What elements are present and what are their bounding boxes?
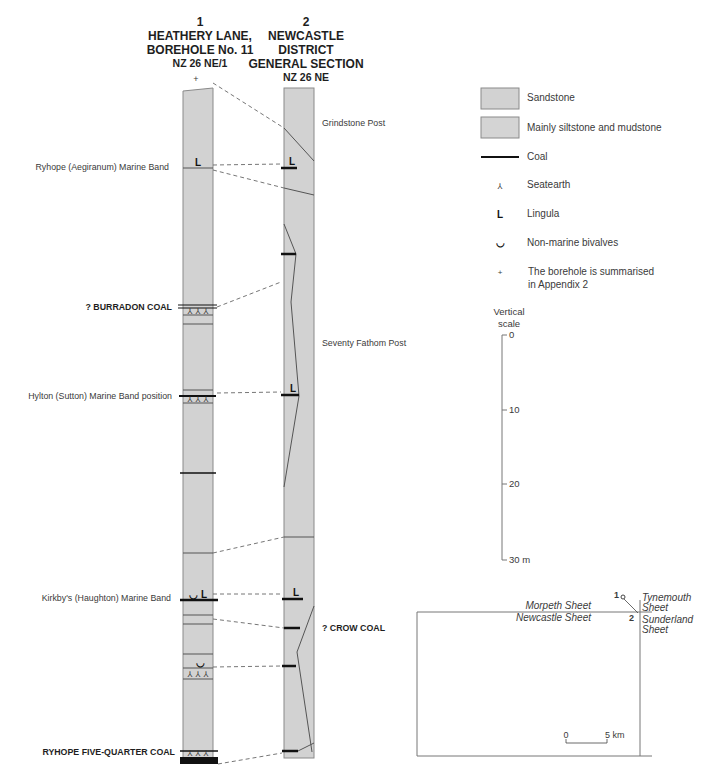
location-map: Morpeth Sheet Newcastle Sheet Tynemouth … (417, 590, 694, 756)
column-1-grid-ref: NZ 26 NE/1 (173, 57, 228, 69)
map-newcastle-sheet: Newcastle Sheet (516, 612, 592, 623)
column-1-log: L ⅄ ⅄ ⅄ ⅄ ⅄ ⅄ ◡ L ◡ ⅄ ⅄ ⅄ ⅄ ⅄ ⅄ (178, 88, 218, 764)
correlation-lines (213, 83, 284, 764)
lingula-icon: L (201, 589, 207, 600)
vertical-scale: Vertical scale 0 10 20 30 m (493, 306, 530, 565)
legend-borehole-note-label: The borehole is summarised (528, 266, 654, 277)
right-labels: Grindstone Post Seventy Fathom Post ? CR… (322, 118, 407, 633)
seatearth-icon: ⅄ (203, 395, 209, 404)
label-ryhope-five-quarter-coal: RYHOPE FIVE-QUARTER COAL (42, 747, 175, 757)
sandstone-swatch (481, 88, 519, 109)
scale-tick-0: 0 (509, 329, 514, 340)
bivalve-icon: ◡ (496, 237, 505, 248)
map-scale-end: 5 km (605, 730, 625, 740)
correlation-diagram: 1 HEATHERY LANE, BOREHOLE No. 11 NZ 26 N… (0, 0, 710, 777)
seatearth-icon: ⅄ (195, 670, 201, 679)
map-sunderland-sheet-2: Sheet (642, 624, 669, 635)
label-burradon-coal: ? BURRADON COAL (86, 302, 173, 312)
siltstone-swatch (481, 117, 519, 138)
column-1-header: 1 HEATHERY LANE, BOREHOLE No. 11 NZ 26 N… (147, 15, 254, 84)
borehole-note-marker: + (193, 74, 198, 84)
label-ryhope-marine-band: Ryhope (Aegiranum) Marine Band (36, 162, 170, 172)
column-2-log: L L L (281, 88, 314, 758)
bivalve-icon: ◡ (189, 589, 198, 600)
lingula-icon: L (195, 157, 201, 168)
scale-title-line-1: Vertical (493, 306, 524, 317)
label-kirkby-marine-band: Kirkby's (Haughton) Marine Band (42, 593, 171, 603)
coal-seam-thick (180, 757, 218, 764)
seatearth-icon: ⅄ (195, 749, 201, 758)
legend-coal-label: Coal (527, 151, 548, 162)
label-crow-coal: ? CROW COAL (322, 623, 386, 633)
scale-tick-20: 20 (509, 478, 520, 489)
column-2-title-line-2: DISTRICT (278, 43, 334, 57)
seatearth-icon: ⅄ (187, 395, 193, 404)
borehole-location-icon (621, 595, 625, 599)
seatearth-icon: ⅄ (497, 182, 503, 191)
seatearth-icon: ⅄ (195, 307, 201, 316)
lingula-icon: L (497, 209, 503, 220)
column-1-title-line-1: HEATHERY LANE, (148, 29, 252, 43)
label-seventy-fathom-post: Seventy Fathom Post (322, 338, 407, 348)
map-point-1: 1 (614, 590, 619, 600)
legend-lingula-label: Lingula (527, 208, 560, 219)
lingula-icon: L (290, 383, 296, 394)
seatearth-icon: ⅄ (187, 670, 193, 679)
legend-sandstone-label: Sandstone (527, 92, 575, 103)
legend-siltstone-label: Mainly siltstone and mudstone (527, 122, 662, 133)
legend-borehole-note-label-2: in Appendix 2 (528, 279, 588, 290)
map-tynemouth-sheet-2: Sheet (642, 602, 669, 613)
column-1-number: 1 (197, 15, 204, 29)
seatearth-icon: ⅄ (203, 670, 209, 679)
label-grindstone-post: Grindstone Post (322, 118, 386, 128)
column-1-title-line-2: BOREHOLE No. 11 (147, 43, 254, 57)
seatearth-icon: ⅄ (187, 749, 193, 758)
legend-bivalve-label: Non-marine bivalves (527, 237, 618, 248)
seatearth-icon: ⅄ (195, 395, 201, 404)
column-2-header: 2 NEWCASTLE DISTRICT GENERAL SECTION NZ … (248, 15, 363, 83)
seatearth-icon: ⅄ (187, 307, 193, 316)
seatearth-icon: ⅄ (203, 749, 209, 758)
column-2-grid-ref: NZ 26 NE (283, 71, 329, 83)
legend-seatearth-label: Seatearth (527, 179, 570, 190)
column-2-title-line-3: GENERAL SECTION (248, 57, 363, 71)
column-2-title-line-1: NEWCASTLE (268, 29, 344, 43)
legend: Sandstone Mainly siltstone and mudstone … (481, 88, 662, 290)
map-point-2: 2 (629, 613, 634, 623)
scale-tick-30: 30 m (509, 554, 530, 565)
column-2-number: 2 (303, 15, 310, 29)
lingula-icon: L (293, 587, 299, 598)
map-scale-start: 0 (563, 730, 568, 740)
column-2-rect (284, 88, 314, 758)
lingula-icon: L (289, 156, 295, 167)
label-hylton-marine-band: Hylton (Sutton) Marine Band position (28, 391, 172, 401)
left-labels: Ryhope (Aegiranum) Marine Band ? BURRADO… (28, 162, 175, 757)
borehole-note-icon: + (498, 268, 503, 277)
scale-title-line-2: scale (498, 318, 520, 329)
bivalve-icon: ◡ (196, 657, 205, 668)
scale-tick-10: 10 (509, 404, 520, 415)
seatearth-icon: ⅄ (203, 307, 209, 316)
map-morpeth-sheet: Morpeth Sheet (525, 600, 592, 611)
